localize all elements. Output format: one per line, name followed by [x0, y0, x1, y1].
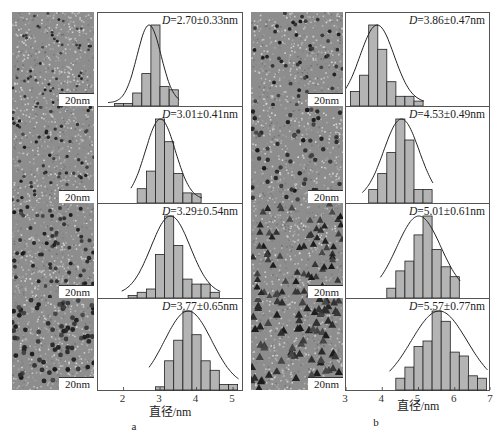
- x-tick-label: 4: [193, 392, 199, 404]
- panel-label-b: b: [373, 416, 379, 428]
- histogram-b-3: D=5.01±0.61nm: [345, 203, 490, 299]
- mean-diameter-label: D=5.01±0.61nm: [409, 205, 485, 217]
- histogram-a-1: D=2.70±0.33nm: [97, 12, 243, 107]
- tem-image: 20nm: [12, 203, 94, 298]
- x-tick-label: 7: [487, 392, 493, 404]
- scale-bar: 20nm: [308, 93, 343, 106]
- scale-bar: 20nm: [59, 190, 94, 203]
- tem-image: 20nm: [12, 298, 94, 390]
- mean-diameter-label: D=3.86±0.47nm: [409, 14, 485, 26]
- histogram-a-4: D=3.77±0.65nm: [97, 298, 243, 391]
- scale-bar: 20nm: [308, 190, 343, 203]
- tem-image: 20nm: [251, 203, 343, 298]
- histogram-a-3: D=3.29±0.54nm: [97, 203, 243, 299]
- x-tick-label: 2: [120, 392, 126, 404]
- x-axis-title-b: 直径/nm: [397, 396, 440, 414]
- x-tick-label: 5: [229, 392, 235, 404]
- scale-bar: 20nm: [59, 93, 94, 106]
- scale-bar: 20nm: [308, 377, 343, 390]
- tem-image: 20nm: [12, 106, 94, 203]
- tem-image: 20nm: [251, 298, 343, 390]
- mean-diameter-label: D=3.29±0.54nm: [162, 205, 238, 217]
- histogram-b-4: D=5.57±0.77nm: [345, 298, 490, 391]
- tem-image: 20nm: [251, 12, 343, 106]
- x-axis-title-a: 直径/nm: [149, 402, 192, 420]
- mean-diameter-label: D=5.57±0.77nm: [409, 300, 485, 312]
- tem-image: 20nm: [12, 12, 94, 106]
- scale-bar: 20nm: [59, 377, 94, 390]
- panel-label-a: a: [132, 420, 137, 432]
- histogram-b-1: D=3.86±0.47nm: [345, 12, 490, 107]
- tem-image: 20nm: [251, 106, 343, 203]
- mean-diameter-label: D=3.77±0.65nm: [162, 300, 238, 312]
- histogram-a-2: D=3.01±0.41nm: [97, 106, 243, 204]
- histogram-b-2: D=4.53±0.49nm: [345, 106, 490, 204]
- mean-diameter-label: D=2.70±0.33nm: [162, 14, 238, 26]
- x-tick-label: 4: [379, 392, 385, 404]
- x-tick-label: 3: [342, 392, 348, 404]
- mean-diameter-label: D=3.01±0.41nm: [162, 108, 238, 120]
- x-tick-label: 6: [451, 392, 457, 404]
- mean-diameter-label: D=4.53±0.49nm: [409, 108, 485, 120]
- scale-bar: 20nm: [59, 285, 94, 298]
- scale-bar: 20nm: [308, 285, 343, 298]
